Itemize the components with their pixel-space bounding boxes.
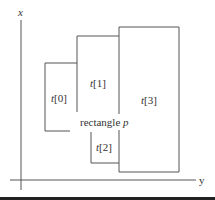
query-rect-label: rectangle p: [80, 116, 129, 128]
axes: x y: [10, 6, 205, 190]
rect-t1-label: t[1]: [90, 77, 106, 89]
rect-t0-label: t[0]: [51, 92, 67, 104]
bottom-border-bar: [0, 197, 215, 200]
rect-t2: t[2]: [91, 132, 119, 163]
rect-t0: t[0]: [45, 63, 77, 131]
rect-t1: t[1]: [77, 36, 119, 112]
rect-t2-label: t[2]: [96, 141, 112, 153]
rect-t3-label: t[3]: [141, 94, 157, 106]
horizontal-axis-label: y: [199, 174, 205, 186]
rectangle-diagram: x y t[0] t[1] t[3] t[2] rectangle p: [0, 0, 215, 200]
vertical-axis-label: x: [17, 6, 23, 18]
rect-t1-outline: [77, 36, 119, 112]
rect-t3: t[3]: [119, 27, 179, 172]
